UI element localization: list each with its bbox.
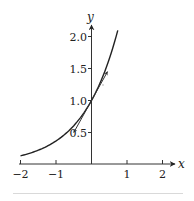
x-tick-label: −1 <box>48 168 64 181</box>
x-tick-label: 2 <box>159 168 166 181</box>
y-tick-label: 2.0 <box>70 31 88 44</box>
y-tick-label: 0.5 <box>70 127 88 140</box>
bottom-rule <box>13 193 183 194</box>
x-ticks: −2−112 <box>12 160 166 181</box>
x-tick-label: −2 <box>12 168 28 181</box>
y-tick-label: 1.5 <box>70 63 88 76</box>
y-axis-label: y <box>86 10 94 24</box>
y-tick-label: 1.0 <box>70 95 88 108</box>
stray-dot <box>102 84 104 86</box>
y-ticks: 0.51.01.52.0 <box>70 31 92 140</box>
exponential-plot: −2−112 0.51.01.52.0 x y <box>0 0 194 201</box>
x-tick-label: 1 <box>124 168 131 181</box>
x-axis-label: x <box>178 157 185 171</box>
